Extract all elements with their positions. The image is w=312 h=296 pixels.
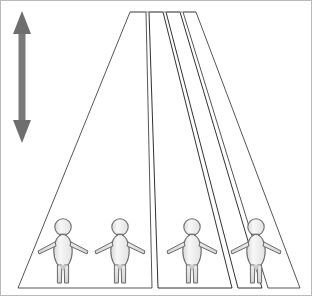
- arrow-shaft: [19, 24, 26, 130]
- illusion-diagram: [0, 0, 312, 296]
- vertical-double-headed-arrow: [13, 11, 31, 143]
- arrow-head-up: [13, 11, 31, 34]
- arrow-head-down: [13, 120, 31, 143]
- diagram-canvas: [0, 0, 312, 296]
